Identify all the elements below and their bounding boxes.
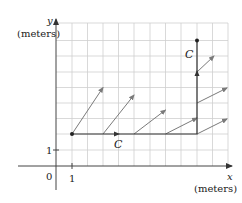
y-axis-label: y	[46, 15, 53, 26]
curve-direction-arrow-horizontal	[114, 132, 120, 137]
curve-label-vertical: C	[185, 48, 194, 61]
curve-end-point	[195, 39, 199, 43]
x-axis-unit: (meters)	[194, 183, 237, 194]
vector-arrow	[197, 88, 227, 103]
curve-start-point	[70, 132, 74, 136]
grid	[56, 23, 228, 166]
vector-arrow	[197, 119, 227, 134]
y-axis-unit: (meters)	[17, 28, 60, 39]
curve-label-horizontal: C	[114, 138, 123, 151]
vector-arrows	[72, 56, 227, 134]
vector-field-diagram: y (meters) x (meters) 0 1 1 C C	[0, 0, 242, 203]
origin-label: 0	[46, 171, 52, 182]
x-tick-label: 1	[69, 173, 75, 184]
y-tick-label: 1	[46, 145, 52, 156]
x-axis-label: x	[227, 171, 233, 182]
axes	[18, 19, 232, 190]
vector-arrow	[197, 56, 214, 72]
